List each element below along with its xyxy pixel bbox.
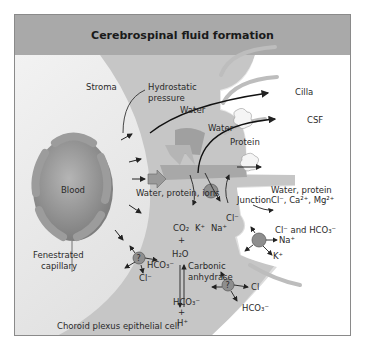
label-k-out: K⁺ — [273, 251, 283, 261]
label-cl-in: Cl⁻ — [226, 213, 239, 223]
label-cl-left: Cl⁻ — [139, 273, 152, 283]
label-water-protein-ions: Water, protein, ions — [136, 188, 220, 198]
label-protein: Protein — [230, 137, 260, 147]
csf-diagram: ? ? Stroma Hydrostatic pressure Cilla CS… — [15, 15, 351, 336]
label-hco3-right: HCO₃⁻ — [242, 303, 269, 313]
label-hco3-mid: HCO₃⁻ — [173, 297, 200, 307]
label-cl-hco3-out: Cl⁻ and HCO₃⁻ — [275, 225, 336, 235]
label-pressure: pressure — [148, 93, 185, 103]
label-cilia: Cilla — [295, 87, 313, 97]
label-water-1: Water — [180, 105, 206, 115]
label-na-out: Na⁺ — [279, 235, 295, 245]
exchanger-q-right: ? — [226, 281, 230, 290]
label-fenestrated: Fenestrated — [33, 250, 84, 260]
label-hco3-left: HCO₃⁻ — [147, 260, 174, 270]
label-anhydrase: anhydrase — [188, 272, 233, 282]
label-plus-1: + — [178, 235, 185, 245]
label-co2: CO₂ — [173, 223, 189, 233]
label-hydrostatic: Hydrostatic — [148, 82, 197, 92]
label-water-2: Water — [208, 123, 234, 133]
label-out-water-protein: Water, protein — [271, 185, 332, 195]
label-stroma: Stroma — [86, 82, 117, 92]
label-h2o: H₂O — [172, 249, 189, 259]
label-junction: Junction — [236, 195, 271, 205]
label-csf: CSF — [307, 115, 323, 125]
label-na-in: Na⁺ — [211, 223, 227, 233]
label-cl-right: Cl — [251, 282, 259, 292]
label-out-ions: Cl⁻, Ca²⁺, Mg²⁺ — [271, 195, 334, 205]
label-capillary: capillary — [41, 261, 77, 271]
label-blood: Blood — [61, 185, 85, 195]
label-epithelial-cell: Choroid plexus epithelial cell — [57, 321, 179, 331]
diagram-frame: Cerebrospinal fluid formation — [14, 14, 351, 336]
label-plus-2: + — [178, 307, 185, 317]
exchanger-q-left: ? — [137, 254, 141, 263]
basolateral-pump — [252, 233, 266, 247]
label-k-in: K⁺ — [195, 223, 205, 233]
label-carbonic: Carbonic — [188, 261, 226, 271]
